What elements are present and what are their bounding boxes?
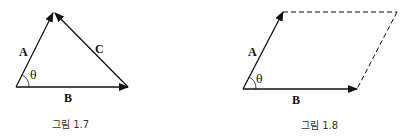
angle-arc — [249, 77, 256, 89]
angle-theta-label: θ — [30, 69, 37, 82]
vector-b-label: B — [64, 91, 72, 105]
figure-caption: 그림 1.7 — [52, 119, 89, 130]
vector-c-label: C — [95, 42, 104, 56]
angle-arc — [22, 75, 29, 87]
figure-caption: 그림 1.8 — [301, 120, 338, 131]
vector-b-label: B — [292, 93, 300, 107]
dashed-right-side — [357, 12, 397, 89]
figure-1-7: A C B θ 그림 1.7 — [16, 13, 128, 130]
figure-1-8: A B θ 그림 1.8 — [243, 12, 397, 131]
vector-a-label: A — [248, 45, 257, 59]
vector-c-arrow — [55, 13, 128, 87]
angle-theta-label: θ — [256, 73, 263, 86]
diagram-canvas: A C B θ 그림 1.7 A B θ 그림 1.8 — [0, 0, 408, 137]
vector-a-label: A — [19, 45, 28, 59]
